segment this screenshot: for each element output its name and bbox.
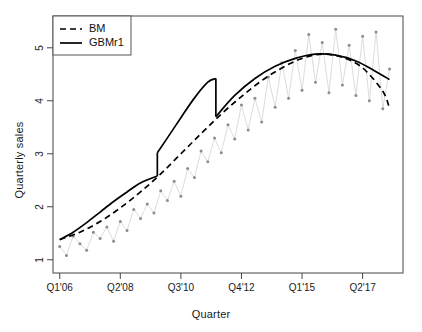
chart-figure: Q1'06Q2'08Q3'10Q4'12Q1'15Q2'1712345 Quar… [0,0,422,332]
x-tick-label: Q1'06 [47,282,73,293]
y-tick-label: 1 [34,257,45,263]
y-tick-label: 5 [34,45,45,51]
bm-series-line [60,54,390,239]
observed-series-points [58,28,391,257]
x-tick-label: Q4'12 [228,282,254,293]
gbmr1-series-line [60,54,390,240]
x-tick-label: Q3'10 [168,282,194,293]
y-axis-title: Quarterly sales [13,100,25,220]
y-tick-label: 3 [34,151,45,157]
observed-series-line [60,29,390,255]
x-tick-label: Q2'08 [107,282,133,293]
x-axis-title: Quarter [0,308,422,320]
x-tick-label: Q2'17 [349,282,375,293]
legend-entry-bm: BM [89,22,106,34]
legend-entry-gbmr1: GBMr1 [89,36,124,48]
x-tick-label: Q1'15 [289,282,315,293]
y-tick-label: 4 [34,98,45,104]
y-tick-label: 2 [34,204,45,210]
